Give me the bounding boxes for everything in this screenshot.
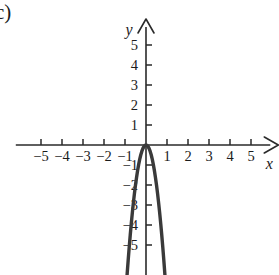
y-tick-label: 2: [131, 97, 138, 113]
y-tick-label: 4: [131, 57, 139, 73]
y-tick-label: −1: [123, 157, 138, 173]
x-tick-label: −3: [75, 148, 90, 164]
y-axis-label: y: [123, 21, 133, 39]
x-tick-label: −2: [96, 148, 111, 164]
x-tick-label: 1: [163, 148, 170, 164]
graph-figure: c) −5−4−3−2−112345−5−4−3−2−112345 xy: [0, 0, 279, 275]
y-tick-label: −3: [123, 197, 138, 213]
x-tick-label: −5: [33, 148, 48, 164]
x-axis-label: x: [265, 155, 273, 172]
x-tick-label: 5: [247, 148, 254, 164]
coordinate-plane: −5−4−3−2−112345−5−4−3−2−112345 xy: [0, 0, 279, 275]
x-tick-label: −4: [54, 148, 70, 164]
y-tick-label: 5: [131, 37, 138, 53]
x-tick-label: 3: [205, 148, 212, 164]
x-tick-label: 4: [226, 148, 234, 164]
y-tick-label: 1: [131, 117, 138, 133]
x-tick-label: 2: [184, 148, 191, 164]
y-tick-label: 3: [131, 77, 138, 93]
